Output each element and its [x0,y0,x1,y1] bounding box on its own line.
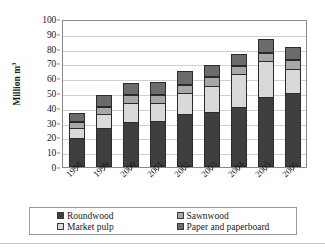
bar-segment[interactable] [204,77,220,86]
y-axis-title-text: Million m [12,66,22,106]
legend-swatch-icon [57,223,64,230]
legend-label: Roundwood [67,211,113,221]
bar-segment[interactable] [123,83,139,95]
figure-bottom-divider [0,243,325,244]
bar-segment[interactable] [177,85,193,93]
y-axis-title-exponent: 3 [10,62,18,66]
bar-segment[interactable] [69,113,85,122]
bar-segment[interactable] [285,60,301,69]
chart-figure: 0102030405060708090100 Million m3 199819… [0,0,325,249]
y-axis-title: Million m3 [10,44,22,124]
bar-segment[interactable] [123,103,139,122]
x-axis-tick: 2001 [150,169,166,203]
bar-stack[interactable] [123,21,139,167]
y-axis-tick-mark [57,34,60,35]
legend-label: Sawnwood [187,211,229,221]
legend-item[interactable]: Sawnwood [177,210,297,221]
bar-segment[interactable] [285,93,301,167]
bar-segment[interactable] [231,74,247,107]
bar-segment[interactable] [231,54,247,66]
bar-segment[interactable] [96,95,112,107]
y-axis-tick-label: 30 [47,119,56,129]
bar-segment[interactable] [204,65,220,77]
legend-swatch-icon [177,212,184,219]
y-axis: 0102030405060708090100 [26,20,60,168]
x-axis: 199819992000200120022003200420052006 [63,169,306,203]
y-axis-tick-mark [57,138,60,139]
bar-segment[interactable] [258,53,274,61]
x-axis-tick: 2000 [123,169,139,203]
x-axis-tick: 2005 [258,169,274,203]
legend-swatch-icon [177,223,184,230]
chart-legend: RoundwoodSawnwoodMarket pulpPaper and pa… [29,207,297,235]
bar-segment[interactable] [231,66,247,74]
y-axis-tick-label: 50 [47,89,56,99]
legend-label: Paper and paperboard [187,222,270,232]
legend-item[interactable]: Roundwood [57,210,177,221]
bar-segment[interactable] [285,47,301,60]
y-axis-tick-label: 20 [47,133,56,143]
bar-stack[interactable] [96,21,112,167]
bar-segment[interactable] [150,103,166,121]
bar-stack[interactable] [285,21,301,167]
bar-segment[interactable] [258,39,274,54]
legend-label: Market pulp [67,222,114,232]
bar-segment[interactable] [204,86,220,112]
bar-stack[interactable] [231,21,247,167]
x-axis-tick: 2004 [231,169,247,203]
y-axis-tick-mark [57,108,60,109]
bar-segment[interactable] [258,97,274,167]
y-axis-tick-label: 80 [47,45,56,55]
bar-segment[interactable] [177,93,193,115]
y-axis-tick-mark [57,79,60,80]
y-axis-tick-mark [57,49,60,50]
legend-item[interactable]: Paper and paperboard [177,221,297,232]
y-axis-tick-label: 60 [47,74,56,84]
y-axis-tick-label: 90 [47,30,56,40]
bar-segment[interactable] [96,107,112,114]
bar-segment[interactable] [123,95,139,102]
y-axis-tick-label: 70 [47,59,56,69]
bar-segment[interactable] [150,95,166,102]
bar-segment[interactable] [177,71,193,84]
bar-stack[interactable] [69,21,85,167]
y-axis-tick-label: 10 [47,148,56,158]
bar-segment[interactable] [96,114,112,127]
y-axis-tick-label: 0 [51,163,56,173]
x-axis-tick: 2006 [285,169,301,203]
bar-segment[interactable] [285,69,301,92]
y-axis-tick-mark [57,20,60,21]
y-axis-tick-label: 100 [42,15,56,25]
bar-stack[interactable] [204,21,220,167]
x-axis-tick: 2003 [204,169,220,203]
bar-series-group [63,21,306,167]
y-axis-tick-mark [57,64,60,65]
legend-swatch-icon [57,212,64,219]
y-axis-tick-mark [57,153,60,154]
y-axis-tick-mark [57,94,60,95]
bar-segment[interactable] [150,82,166,95]
bar-segment[interactable] [69,128,85,138]
y-axis-tick-label: 40 [47,104,56,114]
x-axis-tick: 2002 [177,169,193,203]
x-axis-tick: 1998 [69,169,85,203]
bar-stack[interactable] [150,21,166,167]
bar-segment[interactable] [258,61,274,97]
y-axis-tick-mark [57,123,60,124]
legend-item[interactable]: Market pulp [57,221,177,232]
bar-stack[interactable] [177,21,193,167]
y-axis-tick-mark [57,168,60,169]
x-axis-tick: 1999 [96,169,112,203]
bar-stack[interactable] [258,21,274,167]
